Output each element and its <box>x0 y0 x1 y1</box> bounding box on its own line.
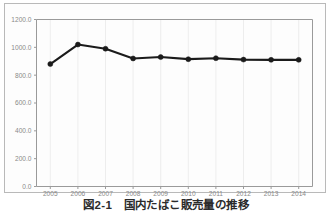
y-tick-label: 0.0 <box>22 183 31 190</box>
y-axis-tick-labels: 0.0200.0400.0600.0800.01000.01200.0 <box>11 16 36 190</box>
data-point-marker <box>48 62 53 67</box>
y-tick-label: 800.0 <box>15 72 32 79</box>
y-tick-label: 1000.0 <box>11 44 32 51</box>
y-tick-label: 600.0 <box>15 99 32 106</box>
data-point-marker <box>296 57 301 62</box>
figure-caption: 図2-1 国内たばこ販売量の推移 <box>0 196 332 214</box>
y-tick-label: 1200.0 <box>11 16 32 23</box>
y-tick-label: 200.0 <box>15 155 32 162</box>
chart-plot-area: 0.0200.0400.0600.0800.01000.01200.0 2005… <box>0 0 332 214</box>
data-point-marker <box>158 55 163 60</box>
gridlines-group <box>50 20 298 187</box>
data-point-marker <box>186 57 191 62</box>
figure-container: 0.0200.0400.0600.0800.01000.01200.0 2005… <box>0 0 332 214</box>
data-point-marker <box>131 56 136 61</box>
data-point-marker <box>213 56 218 61</box>
line-chart-svg: 0.0200.0400.0600.0800.01000.01200.0 2005… <box>0 0 332 214</box>
y-tick-label: 400.0 <box>15 127 32 134</box>
data-point-marker <box>241 57 246 62</box>
data-point-marker <box>269 57 274 62</box>
data-point-marker <box>75 42 80 47</box>
data-point-marker <box>103 46 108 51</box>
series-line-path <box>50 45 298 64</box>
